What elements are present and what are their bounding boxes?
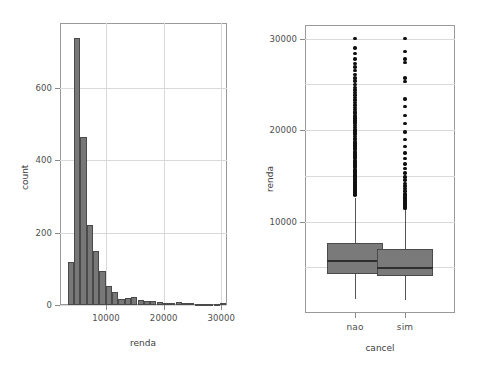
boxplot-xaxis-title: cancel (365, 343, 394, 353)
boxplot-outlier-point (403, 178, 406, 181)
boxplot-outlier-point (353, 65, 356, 68)
boxplot-ytick (300, 130, 305, 131)
figure-canvas: 0200400600100002000030000 renda count 10… (0, 0, 478, 367)
boxplot-outlier-point (403, 76, 406, 79)
boxplot-outlier-point (403, 130, 406, 133)
boxplot-outlier-point (403, 97, 406, 100)
boxplot-outlier-point (403, 50, 406, 53)
boxplot-outlier-point (403, 138, 406, 141)
boxplot-ytick-label: 10000 (259, 217, 297, 227)
boxplot-ytick-label: 30000 (259, 34, 297, 44)
boxplot-xtick (355, 313, 356, 318)
boxplot-outlier-point (403, 162, 406, 165)
boxplot-xtick (405, 313, 406, 318)
boxplot-ytick-label: 20000 (259, 125, 297, 135)
boxplot-outlier-point (353, 62, 356, 65)
boxplot-outlier-point (403, 171, 406, 174)
boxplot-outlier-point (353, 76, 356, 79)
boxplot-outlier-point (403, 61, 406, 64)
boxplot-outlier-point (353, 52, 356, 55)
boxplot-outlier-point (353, 73, 356, 76)
boxplot-outlier-point (403, 157, 406, 160)
boxplot-xtick-label: sim (397, 322, 413, 332)
boxplot-outlier-point (353, 57, 356, 60)
boxplot-outlier-point (403, 145, 406, 148)
boxplot-outlier-point (403, 105, 406, 108)
boxplot-ytick (300, 222, 305, 223)
boxplot-outlier-point (403, 114, 406, 117)
boxplot-outlier-point (403, 167, 406, 170)
boxplot-gridline-horizontal (305, 176, 455, 177)
boxplot-outlier-point (403, 182, 406, 185)
boxplot-gridline-horizontal (305, 222, 455, 223)
boxplot-gridline-horizontal (305, 130, 455, 131)
boxplot-outlier-point (353, 46, 356, 49)
boxplot-box (377, 249, 433, 276)
boxplot-yaxis-title: renda (265, 166, 275, 192)
boxplot-median-line (377, 267, 433, 269)
boxplot-xtick-label: nao (346, 322, 363, 332)
boxplot-ytick (300, 39, 305, 40)
boxplot-outlier-point (353, 83, 356, 86)
boxplot-panel: 100002000030000naosim cancel renda (0, 0, 478, 367)
boxplot-outlier-point (403, 57, 406, 60)
boxplot-outlier-point (403, 175, 406, 178)
boxplot-outlier-point (403, 151, 406, 154)
boxplot-median-line (327, 260, 383, 262)
boxplot-box (327, 243, 383, 274)
boxplot-gridline-horizontal (305, 39, 455, 40)
boxplot-gridline-horizontal (305, 84, 455, 85)
